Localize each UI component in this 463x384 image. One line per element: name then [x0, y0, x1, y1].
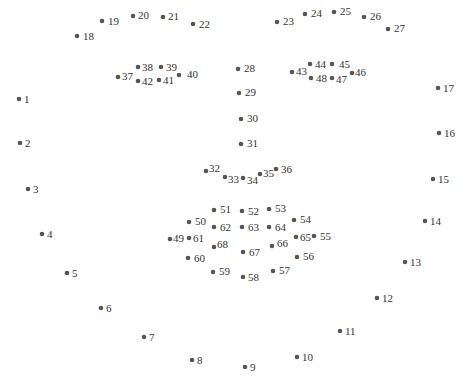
landmark-label: 22 — [199, 18, 210, 30]
landmark-label: 2 — [25, 137, 31, 149]
landmark-point-29: 29 — [237, 86, 257, 98]
landmark-dot — [330, 62, 335, 67]
landmark-label: 66 — [277, 237, 289, 249]
landmark-point-64: 64 — [267, 221, 287, 233]
landmark-label: 38 — [142, 61, 154, 73]
landmark-point-67: 67 — [241, 246, 261, 258]
landmark-dot — [309, 76, 314, 81]
landmark-label: 14 — [430, 215, 442, 227]
landmark-label: 6 — [106, 302, 112, 314]
landmark-dot — [212, 245, 217, 250]
landmark-point-59: 59 — [211, 265, 231, 277]
landmark-label: 63 — [248, 221, 260, 233]
landmark-point-56: 56 — [295, 250, 315, 262]
landmark-label: 33 — [228, 173, 240, 185]
landmark-point-13: 13 — [403, 256, 422, 268]
landmark-dot — [186, 256, 191, 261]
landmark-point-68: 68 — [212, 238, 229, 250]
landmark-canvas: 1234567891011121314151617181920212223242… — [0, 0, 463, 384]
landmark-label: 67 — [249, 246, 261, 258]
landmark-point-10: 10 — [295, 351, 314, 363]
landmark-label: 39 — [166, 61, 178, 73]
landmark-dot — [295, 355, 300, 360]
landmark-point-41: 41 — [157, 74, 174, 86]
landmark-dot — [190, 358, 195, 363]
landmark-dot — [271, 269, 276, 274]
landmark-dot — [241, 250, 246, 255]
landmark-point-36: 36 — [274, 163, 293, 175]
landmark-point-15: 15 — [431, 173, 450, 185]
landmark-point-9: 9 — [243, 361, 256, 373]
landmark-point-20: 20 — [131, 9, 150, 21]
landmark-dot — [75, 34, 80, 39]
landmark-label: 32 — [209, 162, 220, 174]
landmark-dot — [267, 207, 272, 212]
landmark-label: 42 — [142, 75, 153, 87]
landmark-point-32: 32 — [204, 162, 220, 174]
landmark-dot — [100, 19, 105, 24]
landmark-point-46: 46 — [350, 66, 367, 78]
landmark-dot — [362, 15, 367, 20]
landmark-label: 59 — [219, 265, 231, 277]
landmark-label: 13 — [410, 256, 422, 268]
landmark-dot — [18, 141, 23, 146]
landmark-point-27: 27 — [386, 22, 406, 34]
landmark-point-50: 50 — [187, 215, 207, 227]
landmark-dot — [243, 365, 248, 370]
landmark-point-55: 55 — [312, 230, 332, 242]
landmark-label: 17 — [443, 82, 455, 94]
landmark-point-5: 5 — [65, 267, 78, 279]
landmark-dot — [274, 167, 279, 172]
landmark-dot — [270, 244, 275, 249]
landmark-label: 35 — [263, 167, 275, 179]
landmark-point-65: 65 — [294, 231, 312, 243]
landmark-label: 9 — [250, 361, 256, 373]
landmark-point-39: 39 — [159, 61, 178, 73]
landmark-dot — [136, 65, 141, 70]
landmark-dot — [303, 12, 308, 17]
landmark-label: 12 — [382, 292, 393, 304]
landmark-point-53: 53 — [267, 202, 287, 214]
landmark-label: 50 — [195, 215, 207, 227]
landmark-dot — [275, 20, 280, 25]
landmark-dot — [332, 10, 337, 15]
landmark-label: 54 — [300, 213, 312, 225]
landmark-label: 51 — [220, 203, 231, 215]
landmark-dot — [295, 255, 300, 260]
landmark-dot — [292, 218, 297, 223]
landmark-label: 61 — [193, 232, 204, 244]
landmark-point-45: 45 — [330, 58, 351, 70]
landmark-point-12: 12 — [375, 292, 393, 304]
landmark-label: 23 — [283, 15, 295, 27]
landmark-point-19: 19 — [100, 15, 120, 27]
landmark-point-2: 2 — [18, 137, 31, 149]
landmark-dot — [212, 225, 217, 230]
landmark-dot — [212, 208, 217, 213]
landmark-point-28: 28 — [236, 62, 256, 74]
landmark-label: 48 — [316, 72, 328, 84]
landmark-label: 58 — [248, 271, 260, 283]
landmark-point-40: 40 — [177, 68, 199, 80]
landmark-dot — [136, 79, 141, 84]
landmark-point-62: 62 — [212, 221, 231, 233]
landmark-label: 20 — [138, 9, 150, 21]
landmark-point-44: 44 — [308, 58, 327, 70]
landmark-point-33: 33 — [223, 173, 240, 185]
landmark-dot — [223, 175, 228, 180]
landmark-label: 4 — [47, 228, 53, 240]
landmark-point-34: 34 — [241, 174, 259, 186]
landmark-dot — [239, 117, 244, 122]
landmark-label: 26 — [370, 10, 382, 22]
landmark-point-42: 42 — [136, 75, 153, 87]
landmark-dot — [159, 65, 164, 70]
landmark-point-18: 18 — [75, 30, 95, 42]
landmark-point-48: 48 — [309, 72, 328, 84]
landmark-label: 41 — [163, 74, 174, 86]
landmark-label: 65 — [300, 231, 312, 243]
landmark-point-3: 3 — [26, 183, 39, 195]
landmark-point-22: 22 — [191, 18, 210, 30]
landmark-label: 43 — [296, 65, 308, 77]
landmark-label: 1 — [24, 93, 30, 105]
landmark-label: 37 — [122, 70, 134, 82]
landmark-dot — [240, 225, 245, 230]
